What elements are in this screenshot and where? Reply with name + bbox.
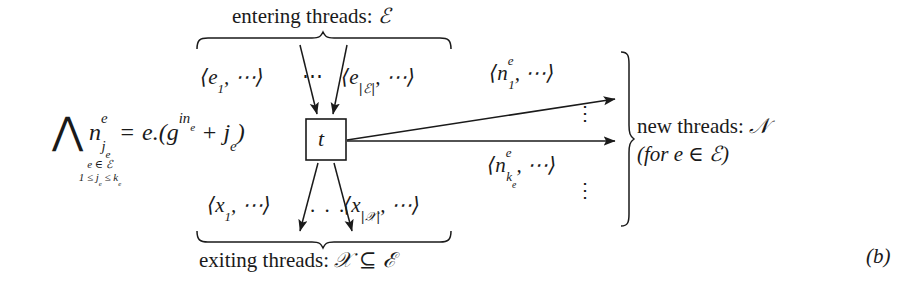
exiting-thread-last-open: ⟨x	[343, 193, 361, 217]
new-thread-first-sup: e	[508, 53, 514, 68]
exiting-thread-first: ⟨x1, ⋯⟩	[207, 195, 271, 216]
new-thread-first-open: ⟨n	[489, 61, 508, 85]
exiting-thread-last: ⟨x|𝒳|, ⋯⟩	[343, 195, 420, 216]
big-wedge-operator: ⋀	[52, 109, 83, 153]
entering-thread-first-close: , ⋯⟩	[224, 65, 264, 89]
exiting-thread-first-close: , ⋯⟩	[231, 193, 271, 217]
exiting-threads-brace	[197, 231, 451, 248]
new-threads-label-text: new threads:	[637, 114, 749, 138]
new-threads-vertical-ellipsis-upper: ⋮	[575, 106, 595, 122]
exiting-threads-label-text: exiting threads:	[199, 248, 334, 272]
transition-node-box	[306, 119, 346, 160]
new-threads-vertical-ellipsis-lower: ⋮	[575, 183, 595, 199]
new-threads-label: new threads: 𝒩	[637, 116, 769, 137]
new-thread-first: ⟨ne1, ⋯⟩	[489, 63, 555, 84]
entering-thread-last-close: , ⋯⟩	[375, 65, 415, 89]
equation-lhs: neje	[89, 119, 110, 145]
wedge-condition: e ∈ ℰ 1 ≤ je ≤ ke	[57, 158, 143, 184]
new-thread-first-close: , ⋯⟩	[515, 61, 555, 85]
exiting-thread-first-open: ⟨x	[207, 193, 225, 217]
exiting-threads-label-symbol: 𝒳 ⊆ ℰ	[334, 248, 395, 272]
exiting-thread-first-index: 1	[225, 209, 232, 224]
panel-tag: (b)	[866, 246, 891, 267]
new-thread-first-index: 1	[508, 77, 515, 92]
exiting-threads-label: exiting threads: 𝒳 ⊆ ℰ	[199, 250, 395, 271]
exiting-threads-ellipsis: . . .	[310, 195, 346, 216]
entering-threads-brace	[197, 32, 451, 49]
new-thread-last-close: , ⋯⟩	[516, 153, 556, 177]
new-threads-brace	[621, 52, 634, 226]
figure-panel-b: entering threads: ℰ ⟨e1, ⋯⟩ ⋯ ⟨e|ℰ|, ⋯⟩ …	[0, 0, 919, 288]
entering-threads-label-symbol: ℰ	[378, 4, 391, 28]
entering-threads-ellipsis: ⋯	[302, 66, 325, 87]
new-threads-scope-note: (for e ∈ ℰ)	[637, 144, 729, 165]
entering-thread-last-open: ⟨e	[341, 65, 359, 89]
equation-rhs: e.(gine + je)	[142, 119, 245, 145]
transition-node-label: t	[318, 126, 324, 152]
new-threads-label-symbol: 𝒩	[749, 114, 769, 138]
new-thread-last: ⟨neke, ⋯⟩	[487, 155, 556, 178]
entering-threads-label-text: entering threads:	[232, 4, 378, 28]
entering-thread-last-index: |ℰ|	[359, 81, 376, 96]
entering-thread-last: ⟨e|ℰ|, ⋯⟩	[341, 67, 415, 88]
wedge-condition-line1: e ∈ ℰ	[57, 158, 143, 171]
new-thread-last-open: ⟨n	[487, 153, 506, 177]
wedge-condition-line2: 1 ≤ je ≤ ke	[57, 171, 143, 184]
entering-thread-first-open: ⟨e	[200, 65, 218, 89]
entering-thread-first-index: 1	[218, 81, 225, 96]
transition-equation: ⋀neje=e.(gine + je)	[52, 112, 245, 150]
new-thread-last-sup: e	[506, 145, 512, 160]
entering-thread-first: ⟨e1, ⋯⟩	[200, 67, 264, 88]
entering-threads-label: entering threads: ℰ	[232, 6, 391, 27]
equation-relation: =	[120, 119, 134, 145]
exiting-thread-last-index: |𝒳|	[361, 209, 381, 224]
exiting-thread-last-close: , ⋯⟩	[380, 193, 420, 217]
